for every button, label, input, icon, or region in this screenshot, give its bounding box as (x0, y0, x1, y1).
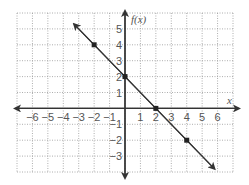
svg-text:3: 3 (116, 55, 122, 67)
svg-text:6: 6 (215, 111, 221, 123)
svg-text:2: 2 (153, 111, 159, 123)
svg-text:4: 4 (116, 39, 122, 51)
svg-text:5: 5 (199, 111, 205, 123)
svg-text:−5: −5 (42, 111, 55, 123)
svg-text:1: 1 (137, 111, 143, 123)
svg-text:4: 4 (184, 111, 190, 123)
svg-text:−6: −6 (26, 111, 39, 123)
x-axis-label: x (226, 94, 232, 106)
data-series (74, 24, 214, 169)
svg-text:−2: −2 (88, 111, 101, 123)
svg-text:5: 5 (116, 23, 122, 35)
svg-text:−4: −4 (57, 111, 70, 123)
y-axis-label: f(x) (131, 13, 147, 26)
svg-text:1: 1 (116, 87, 122, 99)
axes (15, 11, 239, 178)
function-graph: −6−5−4−3−2−112345654321−1−2−3 x f(x) (0, 0, 249, 185)
svg-text:−2: −2 (109, 134, 122, 146)
svg-text:−3: −3 (72, 111, 85, 123)
svg-text:−1: −1 (109, 118, 122, 130)
svg-text:−3: −3 (109, 150, 122, 162)
